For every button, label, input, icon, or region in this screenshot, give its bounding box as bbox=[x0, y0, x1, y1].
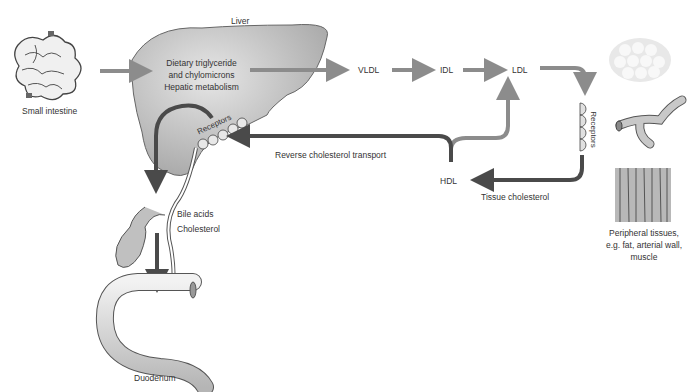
reverse-transport-label: Reverse cholesterol transport bbox=[275, 150, 386, 160]
vldl-label: VLDL bbox=[358, 65, 379, 75]
dietary-label-2: and chylomicrons bbox=[154, 70, 249, 80]
peripheral-receptors-label: Receptors bbox=[589, 111, 598, 147]
artery-icon bbox=[616, 100, 682, 144]
muscle-tissue-icon bbox=[615, 168, 671, 222]
peripheral-label-2: e.g. fat, arterial wall, bbox=[592, 240, 696, 250]
idl-label: IDL bbox=[440, 65, 453, 75]
duodenum-label: Duodenum bbox=[134, 373, 176, 383]
peripheral-receptors-icon bbox=[580, 103, 586, 151]
ldl-label: LDL bbox=[512, 65, 528, 75]
small-intestine-label: Small intestine bbox=[22, 106, 77, 116]
small-intestine-icon bbox=[15, 31, 81, 100]
hepatic-metabolism-label: Hepatic metabolism bbox=[154, 82, 249, 92]
bile-acids-label: Bile acids bbox=[177, 209, 213, 219]
dietary-label-1: Dietary triglyceride bbox=[154, 58, 249, 68]
peripheral-label-1: Peripheral tissues, bbox=[592, 228, 696, 238]
peripheral-label-3: muscle bbox=[592, 252, 696, 262]
hdl-label: HDL bbox=[440, 176, 457, 186]
tissue-cholesterol-label: Tissue cholesterol bbox=[481, 192, 549, 202]
fat-tissue-icon bbox=[609, 38, 671, 82]
cholesterol-label: Cholesterol bbox=[177, 224, 220, 234]
diagram-canvas bbox=[0, 0, 696, 392]
liver-label: Liver bbox=[231, 16, 249, 26]
